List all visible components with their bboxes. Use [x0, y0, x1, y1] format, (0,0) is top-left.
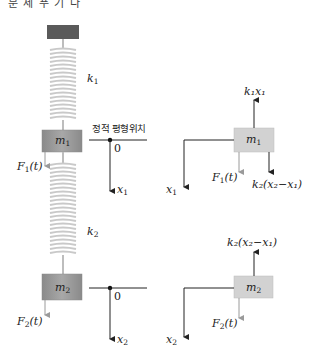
ceiling-block [47, 25, 79, 39]
spring-1-label: k1 [87, 73, 98, 86]
fbd-1-axis-label: x1 [166, 184, 177, 197]
spring-2 [50, 164, 76, 254]
x1-axis-label: x1 [117, 184, 128, 197]
fbd-2-axis-label: x2 [166, 334, 177, 347]
fbd-1-down-force-label: k₂(x₂−x₁) [252, 179, 302, 190]
mass-2-label: m2 [55, 282, 70, 295]
spring-2-label: k2 [87, 226, 98, 239]
equilibrium-position-label: 정적 평형위치 [92, 124, 146, 134]
x2-axis-label: x2 [117, 334, 128, 347]
origin-1-label: 0 [114, 143, 121, 154]
force-2-label: F2(t) [17, 316, 42, 329]
fbd-1-mass-label: m1 [246, 134, 261, 147]
fbd-1-F1-label: F1(t) [212, 172, 237, 185]
origin-2-label: 0 [114, 291, 121, 302]
spring-1 [50, 49, 76, 119]
fbd-2-mass-label: m2 [246, 282, 261, 295]
mass-1-label: m1 [55, 135, 70, 148]
fbd-2-up-force-label: k₂(x₂−x₁) [227, 237, 277, 248]
force-1-label: F1(t) [17, 161, 42, 174]
fbd-1-up-force-label: k₁x₁ [244, 86, 266, 97]
fbd-2-F2-label: F2(t) [212, 318, 237, 331]
